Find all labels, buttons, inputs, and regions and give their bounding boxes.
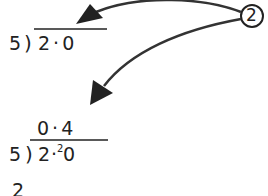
division-1-divisor: 5	[9, 34, 22, 53]
division-1-bracket: )	[24, 33, 33, 53]
arrow-to-division-1	[96, 0, 241, 12]
division-1-dividend: 2·0	[38, 34, 77, 53]
division-2-dividend-frac: 0	[63, 145, 76, 164]
step-marker-label: 2	[246, 7, 258, 24]
division-2-bracket: )	[25, 144, 34, 164]
arrow-to-division-2	[104, 19, 241, 86]
division-2-quotient: 0·4	[37, 119, 76, 138]
arrowhead-1-icon	[76, 4, 103, 24]
division-2-dividend-int: 2	[38, 145, 51, 164]
arrowhead-2-icon	[90, 80, 113, 105]
division-2-divisor: 5	[9, 145, 22, 164]
partial-next-line: 2	[12, 181, 25, 196]
annotation-arrows	[0, 0, 268, 196]
